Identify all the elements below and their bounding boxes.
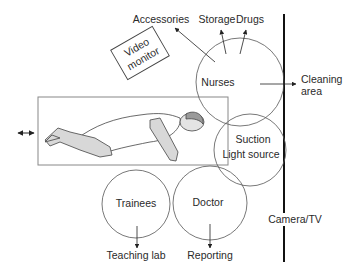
storage-label: Storage [199, 13, 236, 25]
doctor-label: Doctor [193, 196, 224, 208]
accessories-label: Accessories [133, 13, 190, 25]
teaching-lab-label: Teaching lab [107, 249, 166, 261]
light-source-label: Light source [222, 148, 279, 160]
cleaning-area-label: area [301, 85, 322, 97]
endoscopy-room-diagram: Video monitor Nurses Suction Light sourc… [0, 0, 355, 274]
trainees-label: Trainees [116, 197, 156, 209]
reporting-label: Reporting [187, 249, 233, 261]
drugs-label: Drugs [236, 13, 264, 25]
cleaning-label: Cleaning [301, 73, 343, 85]
camera-tv-label: Camera/TV [268, 213, 322, 225]
arrow-to-accessories [175, 28, 215, 62]
patient-figure [45, 112, 204, 161]
nurses-label: Nurses [201, 76, 234, 88]
suction-label: Suction [235, 133, 270, 145]
video-monitor: Video monitor [111, 26, 170, 79]
arrow-to-drugs [240, 30, 246, 54]
